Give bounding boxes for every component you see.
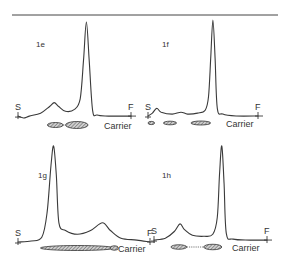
panel-1e: 1eSFCarrier: [15, 22, 136, 131]
densitometer-trace: [18, 146, 150, 242]
carrier-label: Carrier: [104, 121, 132, 131]
carrier-label: Carrier: [118, 244, 146, 254]
spot: [191, 121, 211, 125]
panel-1g: 1gSFCarrier: [15, 146, 155, 254]
panel-label: 1h: [162, 171, 171, 180]
panel-label: 1g: [38, 171, 47, 180]
spot: [204, 244, 222, 250]
spot: [148, 121, 155, 124]
spot: [163, 121, 176, 125]
electrophoresis-figure: 1eSFCarrier1fSFCarrier1gSFCarrier1hSFCar…: [0, 0, 284, 268]
start-label: S: [151, 226, 157, 236]
spot: [171, 245, 187, 250]
start-label: S: [15, 228, 21, 238]
densitometer-trace: [18, 22, 131, 118]
spot: [65, 122, 88, 129]
start-label: S: [145, 102, 151, 112]
spot: [47, 123, 63, 128]
spot: [40, 246, 114, 251]
carrier-label: Carrier: [226, 119, 254, 129]
front-label: F: [264, 226, 270, 236]
start-label: S: [15, 102, 21, 112]
densitometer-trace: [148, 20, 258, 116]
front-label: F: [255, 102, 261, 112]
carrier-label: Carrier: [232, 243, 260, 253]
panel-label: 1e: [36, 40, 45, 49]
panel-1f: 1fSFCarrier: [145, 20, 263, 129]
panel-label: 1f: [162, 40, 169, 49]
densitometer-trace: [154, 146, 267, 240]
front-label: F: [128, 102, 134, 112]
panel-1h: 1hSFCarrier: [151, 146, 272, 253]
